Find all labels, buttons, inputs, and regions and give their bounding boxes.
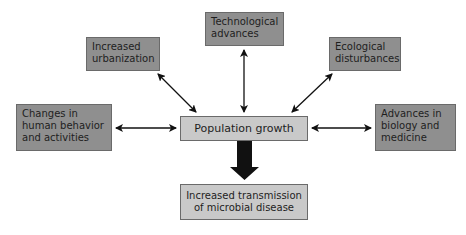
factor-biology-medicine: Advances in biology and medicine bbox=[375, 104, 456, 151]
center-population-growth: Population growth bbox=[180, 116, 308, 141]
factor-line: Ecological bbox=[335, 41, 395, 53]
factor-line: urbanization bbox=[92, 53, 154, 65]
outcome-microbial-disease: Increased transmission of microbial dise… bbox=[180, 184, 308, 220]
big-down-arrow-icon bbox=[230, 141, 259, 180]
outcome-line: Increased transmission bbox=[186, 190, 302, 202]
factor-technological-advances: Technological advances bbox=[205, 12, 284, 46]
center-label: Population growth bbox=[194, 123, 294, 135]
factor-line: Increased bbox=[92, 41, 154, 53]
factor-increased-urbanization: Increased urbanization bbox=[86, 37, 160, 71]
factor-ecological-disturbances: Ecological disturbances bbox=[329, 37, 401, 71]
factor-line: advances bbox=[211, 28, 278, 40]
factor-line: medicine bbox=[381, 132, 450, 144]
factor-line: disturbances bbox=[335, 53, 395, 65]
arrow-urbanization bbox=[158, 74, 196, 112]
factor-line: biology and bbox=[381, 120, 450, 132]
factor-line: human behavior bbox=[22, 120, 106, 132]
factor-line: Changes in bbox=[22, 108, 106, 120]
factor-line: Technological bbox=[211, 16, 278, 28]
factor-line: Advances in bbox=[381, 108, 450, 120]
arrow-ecological bbox=[292, 74, 332, 112]
factor-human-behavior: Changes in human behavior and activities bbox=[16, 104, 112, 151]
factor-line: and activities bbox=[22, 132, 106, 144]
outcome-line: of microbial disease bbox=[194, 202, 294, 214]
